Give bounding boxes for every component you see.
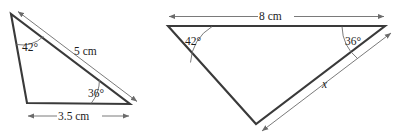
right-triangle-top-label: 8 cm [259,10,282,22]
geometry-figure: 42° 36° 5 cm 3.5 cm 42° 36° [0,0,399,135]
right-triangle-side-x-label: x [321,78,328,90]
right-triangle-angle-top-left-label: 42° [185,35,202,47]
right-triangle-angle-top-right-label: 36° [345,35,362,47]
right-triangle-group: 42° 36° 8 cm x [168,8,391,131]
left-triangle-outline [11,14,130,104]
left-triangle-base-label: 3.5 cm [58,110,89,122]
left-triangle-angle-bottom-right-label: 36° [88,87,105,99]
figure-canvas: 42° 36° 5 cm 3.5 cm 42° 36° [0,0,399,135]
left-triangle-hypotenuse-label: 5 cm [74,45,97,57]
left-triangle-angle-top-label: 42° [22,41,39,53]
left-triangle-group: 42° 36° 5 cm 3.5 cm [11,12,137,124]
